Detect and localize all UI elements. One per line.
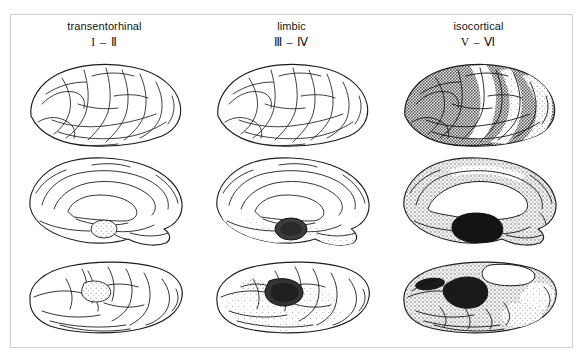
brain-panel-grid	[11, 59, 572, 347]
lateral-outline	[30, 64, 180, 146]
lateral-spared-strip	[469, 65, 552, 144]
brain-basal-limbic	[198, 251, 385, 347]
brain-basal-isocortical	[385, 251, 572, 347]
pathology-focus-dark	[264, 279, 302, 306]
brain-lateral-transentorhinal	[11, 59, 198, 155]
brain-medial-limbic	[198, 155, 385, 251]
column-header-limbic: limbic Ⅲ – Ⅳ	[198, 19, 385, 63]
pathology-focus-light	[91, 220, 117, 238]
brain-basal-transentorhinal	[11, 251, 198, 347]
column-header-row: transentorhinal I – Ⅱ limbic Ⅲ – Ⅳ isoco…	[11, 19, 572, 63]
brain-lateral-isocortical	[385, 59, 572, 155]
column-title-transentorhinal: transentorhinal	[11, 19, 198, 34]
pathology-focus-dark	[275, 218, 307, 240]
column-header-isocortical: isocortical V – Ⅵ	[385, 19, 572, 63]
lateral-outline	[217, 64, 367, 146]
column-title-isocortical: isocortical	[385, 19, 572, 34]
column-stage-transentorhinal: I – Ⅱ	[11, 34, 198, 50]
column-title-limbic: limbic	[198, 19, 385, 34]
brain-medial-transentorhinal	[11, 155, 198, 251]
column-header-transentorhinal: transentorhinal I – Ⅱ	[11, 19, 198, 63]
figure-frame: transentorhinal I – Ⅱ limbic Ⅲ – Ⅳ isoco…	[10, 14, 573, 348]
brain-lateral-limbic	[198, 59, 385, 155]
column-stage-limbic: Ⅲ – Ⅳ	[198, 34, 385, 50]
pathology-focus-light	[81, 281, 110, 302]
pathology-focus-dark	[452, 213, 503, 243]
column-stage-isocortical: V – Ⅵ	[385, 34, 572, 50]
brain-medial-isocortical	[385, 155, 572, 251]
